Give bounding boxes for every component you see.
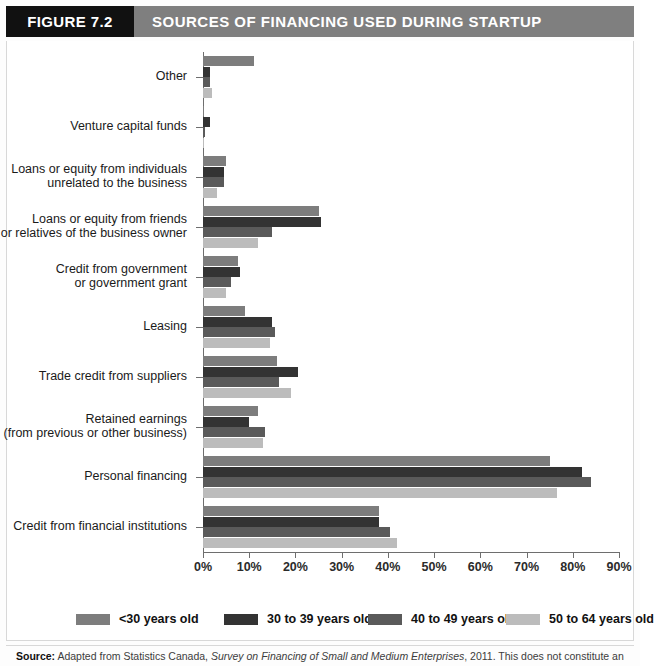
x-axis-tick [388,552,389,558]
bar [203,456,550,466]
category-tick [196,377,203,378]
category-tick [196,477,203,478]
legend-item[interactable]: 40 to 49 years old [368,612,516,626]
category-label: Other [156,69,187,83]
bar [203,377,279,387]
bar [203,327,275,337]
bar [203,367,298,377]
category-tick [196,127,203,128]
bar [203,427,265,437]
bar [203,138,204,148]
category-label: Credit from financial institutions [13,519,187,533]
legend-swatch [76,614,110,625]
category-label: Personal financing [84,469,187,483]
bar [203,117,210,127]
x-axis-tick [342,552,343,558]
bar [203,317,272,327]
bar [203,106,204,116]
legend-item[interactable]: 50 to 64 years old [506,612,654,626]
x-axis-tick [619,552,620,558]
bar [203,267,240,277]
bar [203,388,291,398]
bar [203,167,224,177]
bar [203,488,557,498]
category-label: Retained earnings (from previous or othe… [4,412,187,440]
category-tick [196,327,203,328]
bar [203,338,270,348]
bar [203,156,226,166]
legend-swatch [224,614,258,625]
category-label: Trade credit from suppliers [39,369,187,383]
source-note: Source: Adapted from Statistics Canada, … [6,645,634,666]
x-axis-tick [480,552,481,558]
legend-label: <30 years old [119,612,199,626]
bar [203,127,205,137]
legend-label: 40 to 49 years old [411,612,516,626]
legend-label: 50 to 64 years old [549,612,654,626]
x-axis-tick [295,552,296,558]
x-axis-tick [203,552,204,558]
bar [203,177,224,187]
x-axis-tick-label: 20% [283,560,308,574]
category-tick [196,177,203,178]
category-tick [196,77,203,78]
bar [203,77,210,87]
bar [203,417,249,427]
category-tick [196,527,203,528]
legend-label: 30 to 39 years old [267,612,372,626]
x-axis-tick [434,552,435,558]
bar [203,67,210,77]
category-label: Venture capital funds [70,119,187,133]
x-axis-tick-label: 10% [237,560,262,574]
bar [203,467,582,477]
bar [203,517,379,527]
category-label: Credit from government or government gra… [56,262,187,290]
bar [203,527,390,537]
category-label: Loans or equity from friends or relative… [1,212,187,240]
x-axis-tick-label: 60% [468,560,493,574]
bar [203,288,226,298]
bar [203,56,254,66]
bar [203,88,212,98]
bar [203,227,272,237]
x-axis-line [203,552,619,553]
bar [203,438,263,448]
bar [203,217,321,227]
bar [203,506,379,516]
x-axis-tick-label: 70% [514,560,539,574]
bar [203,188,217,198]
bar [203,256,238,266]
x-axis-tick-label: 40% [375,560,400,574]
legend-item[interactable]: 30 to 39 years old [224,612,372,626]
x-axis-tick [249,552,250,558]
bar [203,406,258,416]
legend-item[interactable]: <30 years old [76,612,199,626]
category-tick [196,277,203,278]
x-axis-tick-label: 50% [422,560,447,574]
category-label: Loans or equity from individuals unrelat… [11,162,187,190]
category-tick [196,427,203,428]
x-axis-tick-label: 30% [329,560,354,574]
source-text: Source: Adapted from Statistics Canada, … [16,650,624,662]
category-tick [196,227,203,228]
x-axis-tick [573,552,574,558]
x-axis-tick [527,552,528,558]
category-label: Leasing [143,319,187,333]
bar [203,306,245,316]
bar [203,477,591,487]
bar [203,206,319,216]
x-axis-tick-label: 80% [560,560,585,574]
x-axis-tick-label: 90% [606,560,631,574]
bar [203,238,258,248]
bar [203,277,231,287]
x-axis-tick-label: 0% [194,560,212,574]
chart-legend: <30 years old30 to 39 years old40 to 49 … [6,602,634,636]
legend-swatch [368,614,402,625]
bar [203,356,277,366]
bar [203,538,397,548]
legend-swatch [506,614,540,625]
